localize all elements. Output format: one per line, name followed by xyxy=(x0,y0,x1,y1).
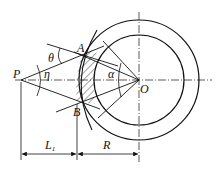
label-R: R xyxy=(102,138,111,152)
angle-theta-arc xyxy=(58,48,62,64)
angle-eta-arc xyxy=(37,65,41,96)
label-theta: θ xyxy=(48,51,54,65)
label-eta: η xyxy=(44,67,50,81)
label-L1: L1 xyxy=(44,138,55,153)
label-B: B xyxy=(73,105,81,119)
label-P: P xyxy=(12,67,21,81)
diagram-canvas: P A B O θ η α L1 R xyxy=(0,0,219,177)
label-alpha: α xyxy=(108,67,115,81)
label-O: O xyxy=(140,82,149,96)
label-A: A xyxy=(76,41,85,55)
line-OB xyxy=(56,80,139,112)
